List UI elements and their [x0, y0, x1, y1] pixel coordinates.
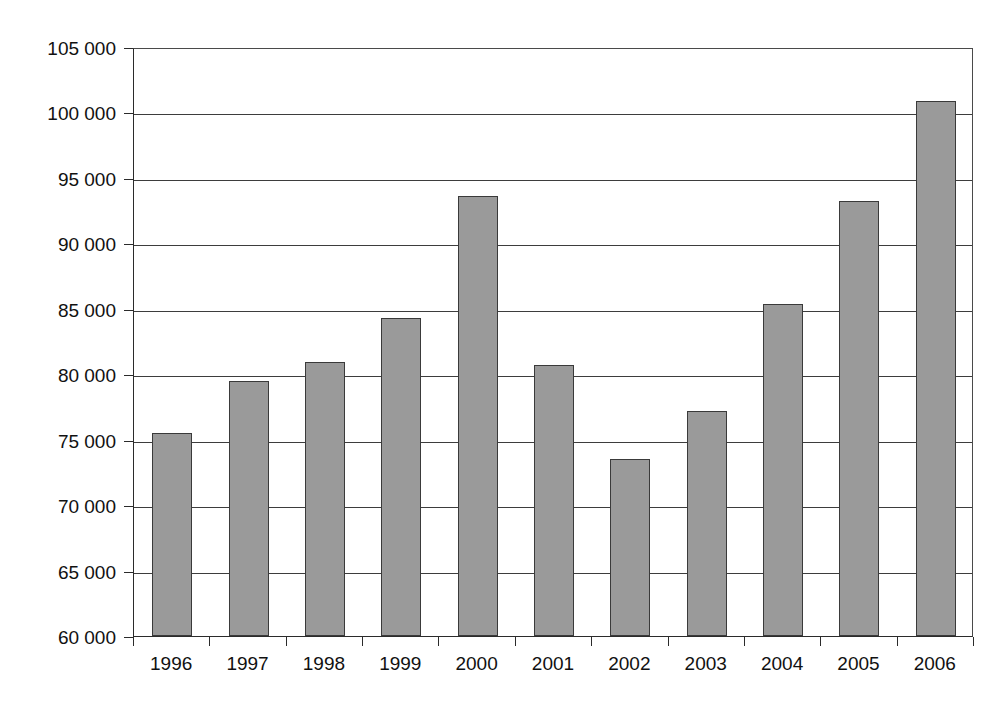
y-axis-tick-label: 65 000 [0, 563, 116, 582]
bar [687, 411, 727, 636]
x-axis-tick-mark [438, 637, 439, 646]
bar [458, 196, 498, 636]
x-axis-tick-mark [133, 637, 134, 646]
bar [916, 101, 956, 636]
y-axis-tick-label: 90 000 [0, 235, 116, 254]
x-axis-tick-mark [744, 637, 745, 646]
bar [381, 318, 421, 636]
bar [305, 362, 345, 636]
y-axis-tick-mark [124, 48, 133, 49]
x-axis-tick-mark [897, 637, 898, 646]
bar [839, 201, 879, 636]
x-axis-tick-mark [515, 637, 516, 646]
y-axis-tick-mark [124, 310, 133, 311]
y-axis-tick-mark [124, 375, 133, 376]
bar [610, 459, 650, 636]
bar-group [134, 49, 972, 636]
y-axis-tick-label: 60 000 [0, 628, 116, 647]
y-axis-tick-mark [124, 113, 133, 114]
y-axis-tick-label: 95 000 [0, 170, 116, 189]
x-axis-tick-mark [209, 637, 210, 646]
y-axis-tick-label: 105 000 [0, 39, 116, 58]
bar [229, 381, 269, 636]
x-axis-tick-mark [820, 637, 821, 646]
y-axis-tick-label: 75 000 [0, 432, 116, 451]
y-axis-tick-label: 100 000 [0, 104, 116, 123]
bar [534, 365, 574, 636]
x-axis-tick-mark [973, 637, 974, 646]
x-axis-tick-mark [591, 637, 592, 646]
y-axis-tick-label: 80 000 [0, 366, 116, 385]
y-axis-tick-label: 70 000 [0, 497, 116, 516]
y-axis-tick-mark [124, 441, 133, 442]
y-axis-tick-mark [124, 506, 133, 507]
y-axis-tick-mark [124, 244, 133, 245]
bar-chart: USD Million 105 000100 00095 00090 00085… [0, 0, 1005, 708]
y-axis-tick-label: 85 000 [0, 301, 116, 320]
x-axis-tick-mark [286, 637, 287, 646]
y-axis-tick-mark [124, 572, 133, 573]
x-axis-tick-label: 2006 [890, 654, 980, 673]
x-axis-tick-mark [668, 637, 669, 646]
x-axis-tick-mark [362, 637, 363, 646]
y-axis-tick-mark [124, 637, 133, 638]
bar [763, 304, 803, 636]
y-axis-tick-mark [124, 179, 133, 180]
plot-area [133, 48, 973, 637]
bar [152, 433, 192, 636]
